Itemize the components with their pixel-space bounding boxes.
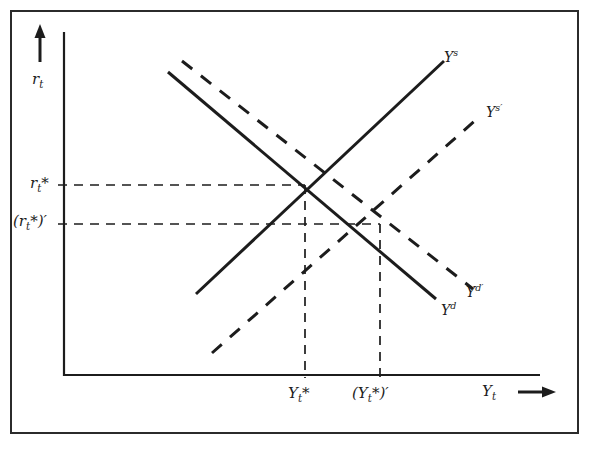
curve-label-supply: Ys [444, 48, 458, 64]
figure-page: rt Yt rt* (rt*)′ Yt* (Yt*)′ Ys Ys′ Yd′ Y… [0, 0, 593, 450]
curve-label-demand: Yd [441, 301, 456, 317]
y-axis-label: rt [32, 72, 43, 90]
y-axis-arrow-icon [35, 24, 46, 62]
diagram-canvas [0, 0, 593, 450]
x-axis-label: Yt [482, 384, 496, 402]
curve-supply [196, 61, 444, 294]
x-axis-label-text: Yt [482, 382, 496, 400]
y-tick-label-r-star: rt* [30, 176, 49, 194]
y-tick-label-r-star-prime: (rt*)′ [13, 214, 47, 232]
curve-label-supply-shifted: Ys′ [486, 103, 502, 119]
x-axis-arrow-icon [518, 387, 556, 398]
curve-demand-shifted [182, 61, 473, 289]
x-tick-label-y-star: Yt* [288, 386, 310, 404]
curve-label-demand-shifted: Yd′ [466, 283, 484, 299]
y-axis-label-text: rt [32, 70, 43, 88]
x-tick-label-y-star-prime: (Yt*)′ [352, 386, 389, 404]
